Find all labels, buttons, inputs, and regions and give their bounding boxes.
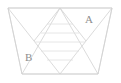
right-edge xyxy=(98,8,112,74)
center-left-diagonal xyxy=(22,8,60,74)
ladder-lines-group xyxy=(35,24,85,60)
trapezoid-outline xyxy=(8,8,112,74)
left-edge xyxy=(8,8,22,74)
internal-segments-group xyxy=(8,8,112,74)
trapezoid-outline-group xyxy=(8,8,112,74)
mid-left-diagonal xyxy=(34,8,60,41)
mid-right-diagonal xyxy=(60,8,86,41)
label-a: A xyxy=(85,14,93,25)
label-b: B xyxy=(25,52,32,63)
figure-canvas: A B xyxy=(0,0,121,83)
geometry-diagram xyxy=(0,0,121,83)
